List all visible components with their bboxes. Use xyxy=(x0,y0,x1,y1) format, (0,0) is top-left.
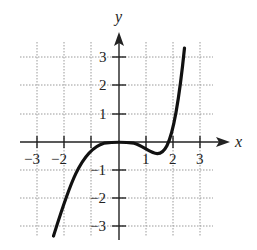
y-tick-label-neg1: −1 xyxy=(90,162,106,178)
y-tick-label-neg3: −3 xyxy=(90,218,106,234)
y-axis xyxy=(112,32,126,240)
cubic-function-graph: y x −3 −2 1 2 3 3 2 1 −1 −2 −3 xyxy=(0,0,257,250)
y-tick-label-2: 2 xyxy=(99,77,107,93)
grid xyxy=(20,42,213,236)
y-tick-label-1: 1 xyxy=(99,106,107,122)
y-tick-label-neg2: −2 xyxy=(90,190,106,206)
y-axis-label: y xyxy=(113,8,123,26)
x-axis-label: x xyxy=(234,133,242,150)
x-tick-label-1: 1 xyxy=(142,151,150,167)
y-tick-label-3: 3 xyxy=(99,49,107,65)
x-tick-label-2: 2 xyxy=(169,151,177,167)
x-tick-label-3: 3 xyxy=(196,151,204,167)
x-tick-label-neg3: −3 xyxy=(24,151,40,167)
x-tick-label-neg2: −2 xyxy=(51,151,67,167)
